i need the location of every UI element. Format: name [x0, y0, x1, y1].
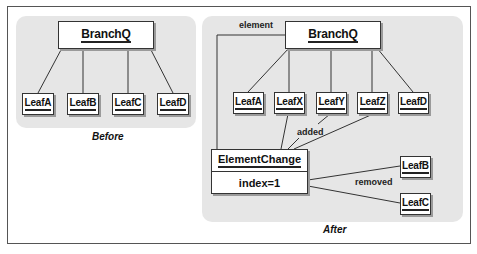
leaf-label: LeafZ	[360, 97, 386, 110]
element-change-title-row: ElementChange	[212, 150, 307, 172]
before-leaf-c: LeafC	[112, 93, 144, 115]
after-leaf-a: LeafA	[233, 92, 264, 114]
before-leaf-a: LeafA	[22, 93, 54, 115]
leaf-label: LeafC	[402, 198, 429, 211]
after-branchq-box: BranchQ	[285, 21, 381, 49]
element-change-title: ElementChange	[218, 154, 301, 168]
element-change-field: index=1	[239, 177, 280, 189]
before-leaf-d: LeafD	[157, 93, 189, 115]
leaf-label: LeafD	[160, 98, 187, 111]
after-branchq-label: BranchQ	[308, 28, 357, 43]
leaf-label: LeafC	[115, 98, 142, 111]
leaf-label: LeafY	[318, 97, 344, 110]
after-leaf-y: LeafY	[316, 92, 347, 114]
before-caption: Before	[92, 131, 124, 142]
element-label: element	[239, 20, 273, 30]
before-leaf-b: LeafB	[67, 93, 99, 115]
leaf-label: LeafB	[402, 161, 429, 174]
leaf-label: LeafD	[400, 97, 427, 110]
after-leaf-z: LeafZ	[357, 92, 388, 114]
element-change-field-row: index=1	[212, 172, 307, 194]
after-leaf-d: LeafD	[398, 92, 429, 114]
after-caption: After	[323, 224, 346, 235]
removed-leaf-c: LeafC	[400, 193, 431, 215]
after-leaf-x: LeafX	[274, 92, 305, 114]
before-branchq-label: BranchQ	[81, 28, 130, 43]
leaf-label: LeafB	[70, 98, 97, 111]
leaf-label: LeafA	[25, 98, 52, 111]
leaf-label: LeafA	[235, 97, 262, 110]
element-change-box: ElementChange index=1	[211, 149, 308, 194]
added-label: added	[297, 127, 324, 137]
before-branchq-box: BranchQ	[58, 21, 154, 49]
leaf-label: LeafX	[276, 97, 302, 110]
removed-leaf-b: LeafB	[400, 156, 431, 178]
removed-label: removed	[355, 177, 393, 187]
